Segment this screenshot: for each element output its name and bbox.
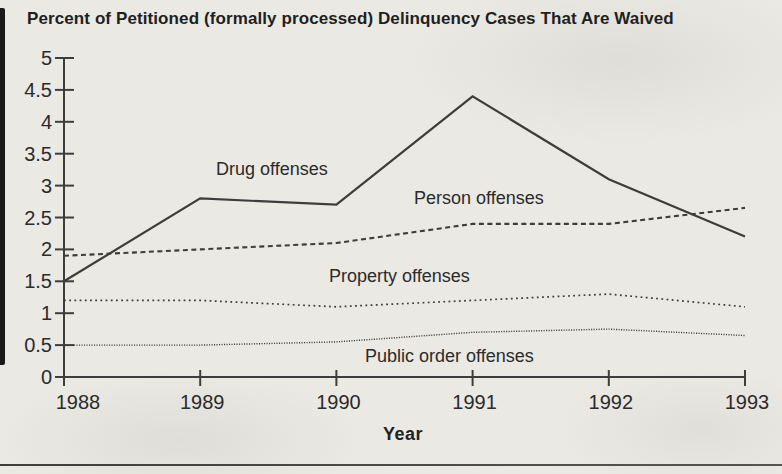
y-tick-label: 4.5	[24, 79, 52, 101]
scanned-chart-page: Percent of Petitioned (formally processe…	[0, 0, 782, 474]
bottom-separator-rule	[0, 464, 782, 466]
series-line-drug-offenses	[64, 96, 745, 281]
y-tick-label: 5	[41, 47, 52, 69]
y-tick-label: 2	[41, 238, 52, 260]
series-line-person-offenses	[64, 208, 745, 256]
series-label-person-offenses: Person offenses	[414, 188, 544, 209]
y-tick-label: 3.5	[24, 143, 52, 165]
x-tick-label: 1992	[589, 391, 634, 413]
y-tick-label: 1	[41, 302, 52, 324]
y-tick-label: 0.5	[24, 334, 52, 356]
series-line-property-offenses	[64, 294, 745, 307]
series-label-drug-offenses: Drug offenses	[216, 159, 328, 180]
y-tick-label: 0	[41, 366, 52, 388]
y-tick-label: 1.5	[24, 270, 52, 292]
y-tick-label: 3	[41, 175, 52, 197]
line-chart: 00.511.522.533.544.551988198919901991199…	[0, 0, 782, 474]
y-tick-label: 2.5	[24, 207, 52, 229]
series-label-property-offenses: Property offenses	[329, 266, 470, 287]
x-tick-label: 1993	[725, 391, 770, 413]
series-line-public-order-offenses	[64, 329, 745, 345]
x-tick-label: 1989	[180, 391, 225, 413]
x-tick-label: 1991	[452, 391, 497, 413]
x-tick-label: 1990	[316, 391, 361, 413]
y-tick-label: 4	[41, 111, 52, 133]
series-label-public-order-offenses: Public order offenses	[365, 346, 534, 367]
x-axis-title: Year	[383, 424, 423, 445]
x-tick-label: 1988	[56, 391, 101, 413]
